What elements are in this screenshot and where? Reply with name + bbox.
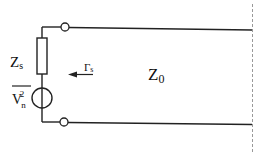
noise-voltage-label: Vn2 [12, 89, 26, 110]
bottom-terminal-icon [60, 118, 68, 126]
reflection-coefficient-label: Γs [84, 61, 93, 74]
source-branch [32, 27, 61, 122]
circuit-diagram: Zs Vn2 Γs Z0 [0, 0, 267, 154]
top-terminal-icon [61, 23, 69, 31]
resistor-zs [37, 38, 47, 74]
transmission-line-top [69, 28, 252, 31]
line-impedance-label: Z0 [148, 65, 164, 86]
transmission-line-bottom [68, 123, 252, 125]
source-impedance-label: Zs [10, 54, 23, 71]
